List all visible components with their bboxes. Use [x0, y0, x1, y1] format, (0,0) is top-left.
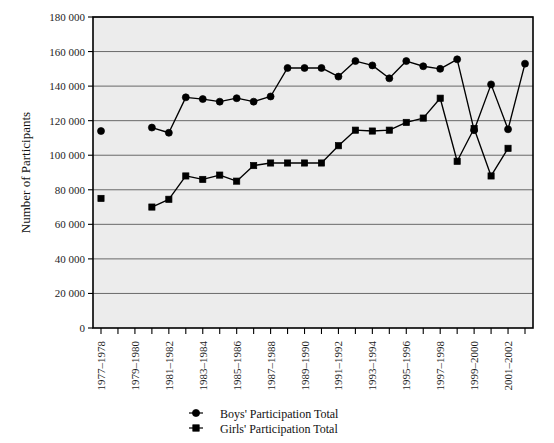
data-point-marker: [505, 126, 512, 133]
data-point-marker: [301, 64, 308, 71]
x-tick-label: 1987–1988: [265, 341, 277, 391]
data-point-marker: [166, 196, 172, 202]
data-point-marker: [454, 56, 461, 63]
chart-figure: 020 00040 00060 00080 000100 000120 0001…: [0, 0, 554, 443]
y-tick-label: 180 000: [49, 11, 85, 23]
data-point-marker: [369, 62, 376, 69]
data-point-marker: [352, 127, 358, 133]
legend-label: Girls' Participation Total: [220, 422, 338, 436]
y-tick-label: 140 000: [49, 80, 85, 92]
data-point-marker: [182, 94, 189, 101]
x-tick-label: 1993–1994: [366, 341, 378, 391]
participation-line-chart: 020 00040 00060 00080 000100 000120 0001…: [0, 0, 554, 443]
data-point-marker: [98, 195, 104, 201]
data-point-marker: [488, 81, 495, 88]
legend-label: Boys' Participation Total: [220, 407, 339, 421]
data-point-marker: [386, 75, 393, 82]
plot-background: [93, 17, 533, 328]
data-point-marker: [420, 63, 427, 70]
data-point-marker: [250, 98, 257, 105]
data-point-marker: [335, 143, 341, 149]
y-tick-label: 60 000: [55, 218, 86, 230]
data-point-marker: [335, 73, 342, 80]
x-tick-label: 1977–1978: [95, 341, 107, 391]
data-point-marker: [199, 96, 206, 103]
data-point-marker: [420, 115, 426, 121]
data-point-marker: [505, 145, 511, 151]
data-point-marker: [165, 129, 172, 136]
data-point-marker: [234, 178, 240, 184]
data-point-marker: [301, 160, 307, 166]
data-point-marker: [148, 124, 155, 131]
data-point-marker: [284, 160, 290, 166]
x-tick-label: 1981–1982: [163, 341, 175, 391]
data-point-marker: [369, 128, 375, 134]
data-point-marker: [200, 176, 206, 182]
y-tick-label: 40 000: [55, 253, 86, 265]
y-tick-label: 0: [80, 322, 86, 334]
data-point-marker: [183, 173, 189, 179]
x-tick-label: 1985–1986: [231, 341, 243, 391]
x-tick-label: 1995–1996: [400, 341, 412, 391]
data-point-marker: [437, 65, 444, 72]
x-tick-label: 1989–1990: [299, 341, 311, 391]
x-tick-label: 2001–2002: [502, 341, 514, 391]
data-point-marker: [267, 93, 274, 100]
y-tick-label: 20 000: [55, 287, 86, 299]
data-point-marker: [318, 64, 325, 71]
x-tick-label: 1991–1992: [332, 341, 344, 391]
y-axis-title: Number of Participants: [18, 112, 33, 233]
data-point-marker: [149, 204, 155, 210]
data-point-marker: [386, 127, 392, 133]
data-point-marker: [471, 125, 477, 131]
data-point-marker: [488, 173, 494, 179]
data-point-marker: [522, 60, 529, 67]
data-point-marker: [217, 172, 223, 178]
data-point-marker: [216, 98, 223, 105]
x-tick-label: 1983–1984: [197, 341, 209, 391]
y-tick-label: 120 000: [49, 115, 85, 127]
data-point-marker: [454, 158, 460, 164]
data-point-marker: [437, 95, 443, 101]
y-tick-label: 100 000: [49, 149, 85, 161]
data-point-marker: [403, 119, 409, 125]
data-point-marker: [352, 58, 359, 65]
y-tick-label: 160 000: [49, 46, 85, 58]
data-point-marker: [251, 162, 257, 168]
data-point-marker: [233, 95, 240, 102]
data-point-marker: [403, 58, 410, 65]
x-tick-label: 1997–1998: [434, 341, 446, 391]
data-point-marker: [268, 160, 274, 166]
x-tick-label: 1979–1980: [129, 341, 141, 391]
y-tick-label: 80 000: [55, 184, 86, 196]
x-tick-label: 1999–2000: [468, 341, 480, 391]
data-point-marker: [98, 128, 105, 135]
data-point-marker: [284, 64, 291, 71]
data-point-marker: [318, 160, 324, 166]
